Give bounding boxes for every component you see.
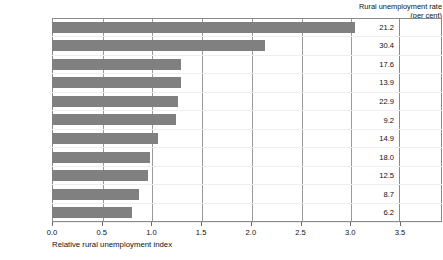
x-tick (102, 222, 103, 226)
bar (52, 133, 158, 144)
x-tick-label: 0.5 (82, 228, 122, 237)
rate-value: 9.2 (352, 115, 394, 126)
rate-value: 14.9 (352, 133, 394, 144)
bar (52, 22, 355, 33)
x-tick-label: 1.5 (181, 228, 221, 237)
x-tick-label: 3.5 (380, 228, 420, 237)
bar-row (52, 37, 400, 56)
bar-row (52, 166, 400, 185)
bar-row (52, 18, 400, 37)
rate-value: 21.2 (352, 22, 394, 33)
x-tick (251, 222, 252, 226)
bar-row (52, 148, 400, 167)
rate-value: 17.6 (352, 59, 394, 70)
rate-value: 12.5 (352, 170, 394, 181)
bar (52, 207, 132, 218)
x-tick-label: 0.0 (32, 228, 72, 237)
x-tick-label: 3.0 (330, 228, 370, 237)
row-separator (52, 222, 442, 223)
bar-row (52, 111, 400, 130)
bar-row (52, 55, 400, 74)
x-tick (350, 222, 351, 226)
bar-row (52, 74, 400, 93)
horizontal-bar-chart: Rural unemployment rate (per cent) Slova… (0, 0, 443, 260)
x-tick (301, 222, 302, 226)
bar (52, 189, 139, 200)
bar (52, 77, 181, 88)
rate-value: 13.9 (352, 77, 394, 88)
x-tick (151, 222, 152, 226)
x-tick (201, 222, 202, 226)
rate-value: 30.4 (352, 40, 394, 51)
bar (52, 40, 265, 51)
rate-value: 18.0 (352, 152, 394, 163)
bar-row (52, 185, 400, 204)
value-column-area (400, 18, 442, 222)
bar (52, 170, 148, 181)
bar-row (52, 129, 400, 148)
x-tick-label: 2.5 (281, 228, 321, 237)
bar-row (52, 203, 400, 222)
x-tick-label: 1.0 (131, 228, 171, 237)
value-column-header-line1: Rural unemployment rate (330, 2, 442, 11)
bar (52, 152, 150, 163)
bar (52, 114, 176, 125)
rate-value: 6.2 (352, 207, 394, 218)
bar-row (52, 92, 400, 111)
rate-value: 22.9 (352, 96, 394, 107)
bar (52, 96, 178, 107)
x-tick (400, 222, 401, 226)
bar (52, 59, 181, 70)
x-axis-title: Relative rural unemployment index (52, 240, 172, 249)
x-tick-label: 2.0 (231, 228, 271, 237)
rate-value: 8.7 (352, 189, 394, 200)
x-tick (52, 222, 53, 226)
